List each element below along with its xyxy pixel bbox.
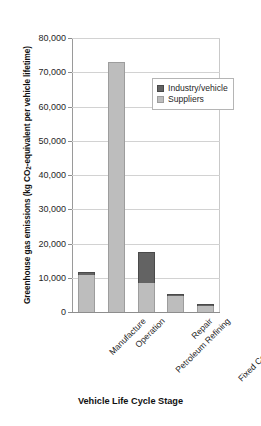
gridline [72,72,220,73]
y-tick-label: 40,000 [38,170,66,180]
x-axis-title: Vehicle Life Cycle Stage [0,396,261,406]
y-tick-mark [68,312,72,313]
bar-segment-suppliers[interactable] [78,275,95,312]
y-axis-title-suffix: -equivalent per vehicle lifetime) [22,46,32,166]
gridline [72,244,220,245]
greenhouse-gas-emissions-chart: Greenhouse gas emissions (kg CO2-equival… [0,0,261,426]
y-tick-mark [68,244,72,245]
y-tick-label: 50,000 [38,136,66,146]
gridline [72,209,220,210]
y-tick-mark [68,209,72,210]
y-tick-mark [68,72,72,73]
legend-item-industry: Industry/vehicle [157,83,228,94]
y-tick-mark [68,141,72,142]
bar-segment-suppliers[interactable] [108,62,125,312]
y-axis-title-prefix: Greenhouse gas emissions (kg CO [22,170,32,304]
y-tick-mark [68,175,72,176]
legend-swatch-suppliers-icon [157,96,164,103]
y-tick-mark [68,278,72,279]
legend-swatch-industry-icon [157,85,164,92]
legend-label-industry: Industry/vehicle [168,84,228,93]
y-tick-label: 60,000 [38,102,66,112]
y-tick-label: 30,000 [38,204,66,214]
gridline [72,141,220,142]
y-tick-label: 10,000 [38,273,66,283]
y-tick-label: 20,000 [38,239,66,249]
bar-column[interactable] [138,252,155,312]
y-tick-label: 0 [61,307,66,317]
bar-column[interactable] [108,62,125,312]
bar-segment-suppliers[interactable] [167,296,184,312]
x-axis-line [72,312,220,313]
bar-segment-industry[interactable] [138,252,155,282]
x-category-label: Fixed Costs/Insurance [236,316,261,384]
legend-item-suppliers: Suppliers [157,94,228,105]
legend-label-suppliers: Suppliers [168,95,204,104]
y-tick-mark [68,38,72,39]
y-tick-mark [68,107,72,108]
y-axis-title: Greenhouse gas emissions (kg CO2-equival… [22,30,32,320]
bar-column[interactable] [167,294,184,312]
bar-segment-suppliers[interactable] [138,283,155,312]
y-tick-label: 70,000 [38,67,66,77]
bar-column[interactable] [78,272,95,312]
bar-column[interactable] [197,304,214,312]
bar-segment-suppliers[interactable] [197,306,214,313]
y-tick-label: 80,000 [38,33,66,43]
gridline [72,38,220,39]
chart-legend: Industry/vehicle Suppliers [152,78,234,110]
gridline [72,175,220,176]
y-axis-title-subscript: 2 [25,166,32,169]
